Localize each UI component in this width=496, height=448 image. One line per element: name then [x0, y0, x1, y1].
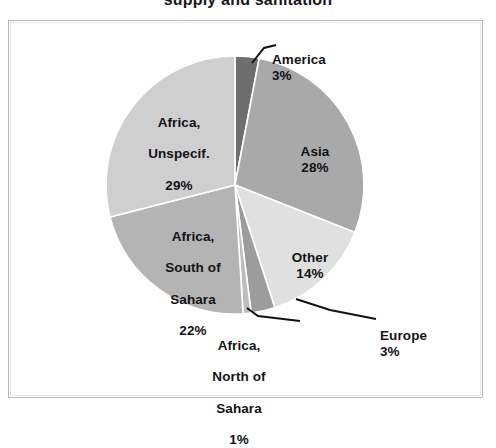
slice-label-other-percent: 14% — [272, 266, 348, 282]
slice-label-asia: Asia 28% — [272, 128, 358, 191]
slice-label-africa-unspecified: Africa, Unspecif. 29% — [124, 99, 234, 209]
slice-label-america-name: America — [272, 52, 326, 67]
slice-label-africa-south-of-sahara: Africa, South of Sahara 22% — [136, 213, 250, 355]
slice-label-europe-percent: 3% — [380, 344, 480, 360]
slice-label-asia-percent: 28% — [272, 160, 358, 176]
leader-line-europe — [296, 299, 376, 319]
slice-label-africa-unspecified-percent: 29% — [124, 178, 234, 194]
slice-label-africa-south-line3: Sahara — [136, 292, 250, 308]
slice-label-europe: Europe 3% — [380, 312, 480, 375]
slice-label-africa-unspecified-line2: Unspecif. — [124, 146, 234, 162]
slice-label-africa-north-line2: North of — [183, 369, 295, 385]
slice-label-asia-name: Asia — [301, 144, 330, 159]
slice-label-africa-south-percent: 22% — [136, 323, 250, 339]
slice-label-africa-north-line3: Sahara — [183, 401, 295, 417]
slice-label-europe-name: Europe — [380, 328, 427, 343]
slice-label-africa-south-line2: South of — [136, 260, 250, 276]
slice-label-america-percent: 3% — [272, 68, 392, 84]
slice-label-other-name: Other — [292, 250, 329, 265]
slice-label-other: Other 14% — [272, 234, 348, 297]
slice-label-america: America 3% — [272, 36, 392, 99]
slice-label-africa-south-line1: Africa, — [136, 229, 250, 245]
slice-label-africa-unspecified-line1: Africa, — [124, 115, 234, 131]
slice-label-africa-north-percent: 1% — [183, 432, 295, 448]
